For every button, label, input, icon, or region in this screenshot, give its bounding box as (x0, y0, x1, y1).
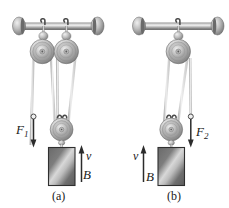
force-label-b: F2 (196, 125, 208, 141)
caption-b: (b) (167, 190, 181, 202)
figure-canvas (0, 0, 229, 208)
force-arrow-b (188, 114, 194, 148)
velocity-label-a: v (86, 150, 91, 162)
force-label-a: F1 (16, 123, 28, 139)
block-label-b: B (146, 170, 154, 183)
fixed-pulley-a-left (30, 39, 54, 63)
block-label-a: B (83, 168, 91, 181)
velocity-label-b: v (133, 150, 138, 162)
panel-b (133, 17, 225, 186)
caption-a: (a) (52, 190, 65, 202)
force-subscript-b: 2 (204, 131, 209, 141)
fixed-pulley-a-right (54, 39, 78, 63)
force-subscript-a: 1 (24, 129, 29, 139)
block-a (49, 148, 76, 186)
support-bar-a (13, 17, 105, 35)
physics-figure: F1 v B (a) F2 v B (b) (0, 0, 229, 208)
fixed-pulley-b (166, 39, 190, 63)
rope-b (164, 58, 191, 122)
force-symbol-b: F (196, 124, 204, 139)
block-b (158, 148, 185, 186)
force-symbol-a: F (16, 122, 24, 137)
